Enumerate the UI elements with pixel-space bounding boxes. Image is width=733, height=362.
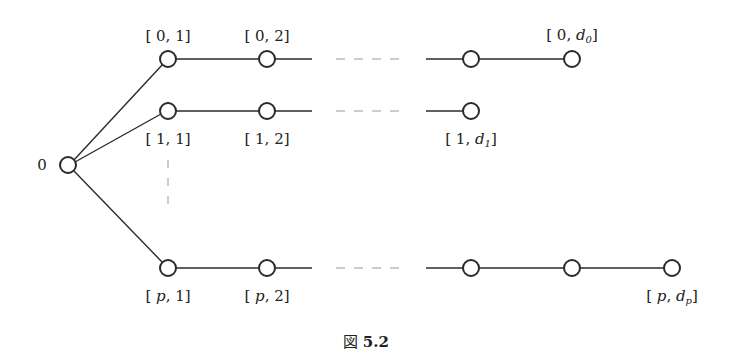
node-1-d1 [463, 103, 479, 119]
node-0-1 [160, 51, 176, 67]
node-1-1 [160, 103, 176, 119]
node-root [60, 157, 76, 173]
node-p-dp [664, 260, 680, 276]
label-p-dp: [ p, dp] [646, 287, 698, 306]
label-1-1: [ 1, 1] [145, 130, 190, 148]
label-p-2: [ p, 2] [244, 287, 289, 305]
node-1-2 [259, 103, 275, 119]
label-1-d1: [ 1, d1] [445, 130, 497, 149]
label-0-d0: [ 0, d0] [546, 26, 598, 45]
root-edges [73, 64, 163, 263]
tree-diagram: [ 0, 1] [ 0, 2] [ 0, d0] [ 1, 1] [ 1, 2]… [0, 0, 733, 362]
row-0: [ 0, 1] [ 0, 2] [ 0, d0] [145, 26, 597, 67]
label-1-2: [ 1, 2] [244, 130, 289, 148]
figure-caption: 図 5.2 [343, 333, 389, 351]
label-0-2: [ 0, 2] [244, 27, 289, 45]
node-p-1 [160, 260, 176, 276]
label-p-1: [ p, 1] [145, 287, 190, 305]
label-root: 0 [37, 156, 47, 174]
node-0-dminus1 [463, 51, 479, 67]
label-0-1: [ 0, 1] [145, 27, 190, 45]
node-0-2 [259, 51, 275, 67]
node-p-dminus1 [564, 260, 580, 276]
node-0-d0 [564, 51, 580, 67]
node-p-dminus2 [463, 260, 479, 276]
row-1: [ 1, 1] [ 1, 2] [ 1, d1] [145, 103, 496, 149]
edge-root-to-p-1 [73, 170, 163, 263]
node-p-2 [259, 260, 275, 276]
row-p: [ p, 1] [ p, 2] [ p, dp] [145, 260, 697, 306]
